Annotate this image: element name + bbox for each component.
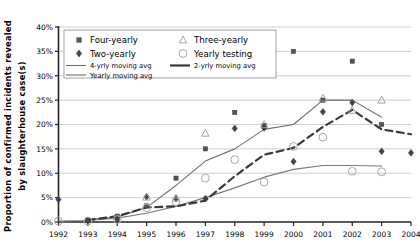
x-tick-label-1996: 1996 — [166, 230, 185, 239]
data-point-four_yearly-2003 — [380, 122, 384, 126]
series-markers-two_yearly — [56, 99, 414, 224]
x-tick-label-2001: 2001 — [313, 230, 332, 239]
legend-label: Yearly moving avg — [89, 72, 152, 80]
data-point-yearly_testing-2001 — [319, 133, 327, 141]
y-axis-title: Proportion of confirmed incidents reveal… — [3, 20, 27, 232]
series-markers-three_yearly — [143, 94, 385, 201]
series-line-ma1 — [59, 165, 382, 221]
x-tick-label-2003: 2003 — [372, 230, 391, 239]
legend-label: Three-yearly — [193, 35, 248, 45]
legend-label: 2-yrly moving avg — [194, 62, 256, 70]
y-tick-label-5%: 5% — [41, 193, 53, 202]
data-point-two_yearly-2001 — [320, 108, 325, 115]
y-axis-title-line1: Proportion of confirmed incidents reveal… — [3, 20, 13, 232]
legend-label: 4-yrly moving avg — [90, 62, 152, 70]
x-tick-label-1993: 1993 — [78, 230, 97, 239]
series-markers-yearly_testing — [55, 133, 386, 225]
y-tick-label-15%: 15% — [36, 145, 53, 154]
y-tick-label-35%: 35% — [36, 47, 53, 56]
data-point-two_yearly-2004 — [408, 149, 413, 156]
x-tick-label-1995: 1995 — [137, 230, 156, 239]
x-tick-label-1994: 1994 — [108, 230, 127, 239]
y-tick-label-30%: 30% — [36, 72, 53, 81]
x-tick-label-1992: 1992 — [49, 230, 68, 239]
data-point-three_yearly-1997 — [202, 129, 209, 136]
series-line-ma2 — [88, 110, 411, 220]
data-point-yearly_testing-1997 — [201, 174, 209, 182]
data-point-four_yearly-2000 — [291, 49, 295, 53]
data-point-four_yearly-2001 — [321, 98, 325, 102]
chart-svg: 0%5%10%15%20%25%30%35%40%199219931994199… — [0, 0, 420, 252]
data-point-yearly_testing-2002 — [348, 167, 356, 175]
y-axis-title-line2: by slaughterhouse case(s) — [17, 61, 27, 191]
y-tick-label-20%: 20% — [36, 120, 53, 129]
legend: Four-yearlyTwo-yearly4-yrly moving avgYe… — [64, 30, 276, 80]
data-point-four_yearly-1997 — [203, 147, 207, 151]
data-point-four_yearly-2002 — [350, 59, 354, 63]
x-tick-label-1998: 1998 — [225, 230, 244, 239]
y-tick-label-25%: 25% — [36, 96, 53, 105]
y-tick-label-40%: 40% — [36, 23, 53, 32]
x-tick-label-1997: 1997 — [196, 230, 215, 239]
data-point-two_yearly-2000 — [291, 158, 296, 165]
legend-label: Four-yearly — [90, 35, 138, 45]
y-tick-label-0%: 0% — [41, 218, 53, 227]
x-tick-label-2000: 2000 — [284, 230, 303, 239]
series-path-ma1 — [59, 165, 382, 221]
legend-label: Yearly testing — [193, 49, 252, 59]
data-point-three_yearly-2003 — [378, 96, 385, 103]
legend-label: Two-yearly — [89, 49, 136, 59]
data-point-yearly_testing-1998 — [231, 156, 239, 164]
data-point-yearly_testing-2003 — [378, 168, 386, 176]
data-point-four_yearly-1998 — [233, 110, 237, 114]
chart-container: 0%5%10%15%20%25%30%35%40%199219931994199… — [0, 0, 420, 252]
y-tick-label-10%: 10% — [36, 169, 53, 178]
legend-swatch-square — [77, 38, 81, 42]
x-tick-label-2002: 2002 — [343, 230, 362, 239]
series-path-ma2 — [88, 110, 411, 220]
data-point-two_yearly-1998 — [232, 125, 237, 132]
data-point-four_yearly-1996 — [174, 176, 178, 180]
data-point-yearly_testing-1999 — [260, 178, 268, 186]
x-tick-label-1999: 1999 — [255, 230, 274, 239]
x-tick-label-2004: 2004 — [401, 230, 420, 239]
